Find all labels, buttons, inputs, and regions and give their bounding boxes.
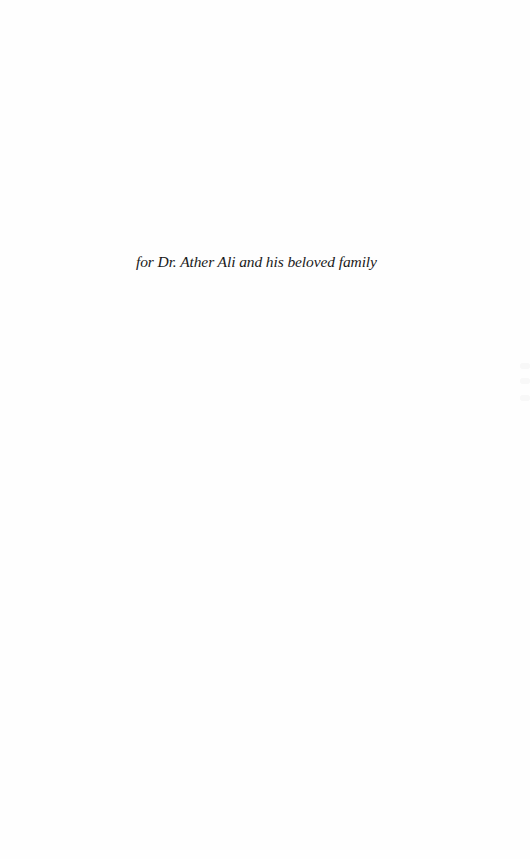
page-bleed-mark — [520, 395, 530, 401]
book-page: for Dr. Ather Ali and his beloved family — [0, 0, 530, 859]
page-bleed-mark — [520, 363, 530, 369]
dedication-text: for Dr. Ather Ali and his beloved family — [136, 253, 377, 271]
page-bleed-mark — [520, 378, 530, 384]
